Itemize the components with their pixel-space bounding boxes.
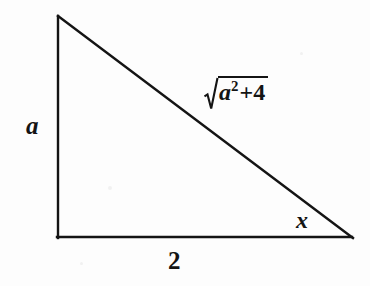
- vertical-leg-label: a: [26, 113, 39, 138]
- radicand-operator: +: [239, 79, 253, 105]
- triangle-outline: [0, 0, 370, 286]
- base-label: 2: [168, 248, 181, 273]
- triangle-figure: a 2 x a2+4: [0, 0, 370, 286]
- angle-label: x: [296, 208, 308, 232]
- radicand-exponent: 2: [231, 78, 238, 94]
- radical-sign-icon: [204, 76, 219, 110]
- radicand-variable: a: [219, 79, 231, 105]
- radicand: a2+4: [218, 76, 268, 104]
- radicand-constant: 4: [253, 79, 265, 105]
- hypotenuse-line: [58, 16, 353, 238]
- hypotenuse-label: a2+4: [204, 76, 268, 110]
